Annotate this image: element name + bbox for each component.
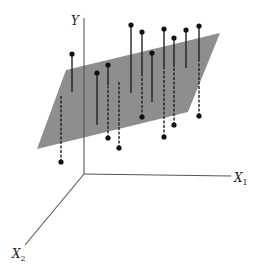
observation-dot (139, 29, 144, 34)
observation-dot (161, 134, 166, 139)
regression-plane (37, 33, 220, 149)
observation-dot (139, 114, 144, 119)
observation-dot (116, 145, 121, 150)
observation-dot (196, 113, 201, 118)
observation-dot (105, 135, 110, 140)
observation-dot (58, 159, 63, 164)
observation-dot (171, 35, 176, 40)
observation-dot (149, 50, 154, 55)
y-axis-label: Y (71, 15, 79, 27)
observation-dot (128, 22, 133, 27)
observation-dot (161, 26, 166, 31)
observation-dot (105, 62, 110, 67)
x1-axis-label: X1 (234, 172, 248, 187)
figure-svg (0, 0, 260, 272)
observation-dot (69, 51, 74, 56)
x2-axis-label: X2 (12, 248, 26, 263)
regression-plane-figure: Y X1 X2 (0, 0, 260, 272)
observation-dot (196, 23, 201, 28)
observation-dot (94, 70, 99, 75)
x2-axis (25, 174, 84, 245)
observation-dot (171, 122, 176, 127)
x1-axis (84, 174, 231, 176)
observation-dot (183, 27, 188, 32)
